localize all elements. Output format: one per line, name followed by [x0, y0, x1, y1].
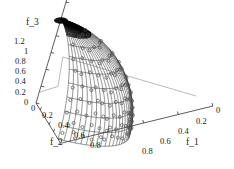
- ytick-0-8: 0.8: [90, 141, 101, 150]
- ztick-0-6: 0.6: [15, 67, 26, 76]
- ztick-1: 1: [24, 47, 28, 56]
- ztick-0-8: 0.8: [15, 57, 26, 66]
- xtick-0-8: 0.8: [142, 147, 153, 156]
- axis-label-f2: f_2: [50, 138, 63, 148]
- ztick-0-2: 0.2: [15, 88, 26, 97]
- axis-label-f3: f_3: [26, 18, 39, 28]
- ztick-1-2: 1.2: [14, 37, 25, 46]
- axis-label-f1: f_1: [186, 138, 199, 148]
- ytick-0-6: 0.6: [74, 131, 85, 140]
- surface-plot-figure: f_3 1.2 1 0.8 0.6 0.4 0.2 0 0 0.2 0.4 0.…: [0, 0, 234, 169]
- xtick-0-6: 0.6: [160, 137, 171, 146]
- xtick-0-4: 0.4: [178, 127, 189, 136]
- xtick-0-2: 0.2: [196, 117, 207, 126]
- ytick-0: 0: [31, 104, 35, 113]
- xtick-0: 0: [216, 106, 220, 115]
- data-point-markers: [61, 28, 134, 141]
- ztick-0-4: 0.4: [15, 77, 26, 86]
- ytick-0-4: 0.4: [58, 121, 69, 130]
- ytick-0-2: 0.2: [42, 111, 53, 120]
- ztick-0: 0: [24, 98, 28, 107]
